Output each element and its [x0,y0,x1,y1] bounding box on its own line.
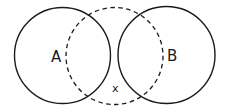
label-b: B [167,47,177,65]
venn-diagram: A B x [0,0,228,109]
label-x: x [112,82,119,95]
label-a: A [51,48,62,66]
circle-a [15,8,111,104]
